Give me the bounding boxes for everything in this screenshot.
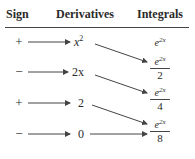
diag-arrow-2 — [95, 75, 147, 93]
sign-2: − — [13, 64, 25, 80]
derivative-3: 2 — [78, 96, 84, 111]
derivative-2: 2x — [72, 65, 84, 80]
sign-4: − — [13, 126, 25, 142]
sign-1: + — [13, 34, 25, 50]
diag-arrow-3 — [92, 105, 147, 124]
derivative-1: x2 — [74, 34, 83, 50]
integral-1: e2x — [148, 35, 172, 48]
integral-3: e2x 4 — [148, 85, 172, 112]
diag-arrow-1 — [95, 44, 147, 62]
integral-2: e2x 2 — [148, 54, 172, 81]
integral-4: e2x 8 — [148, 117, 172, 144]
sign-3: + — [13, 95, 25, 111]
derivative-4: 0 — [78, 127, 84, 142]
